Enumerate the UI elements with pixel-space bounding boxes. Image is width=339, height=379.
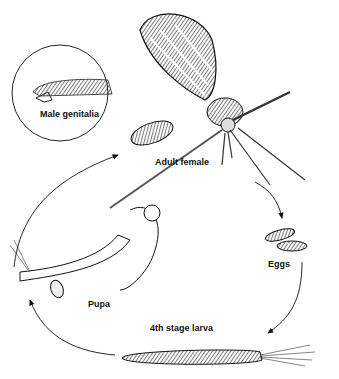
pupa-label: Pupa: [88, 299, 110, 309]
life-cycle-diagram: Male genitalia Adult female Eggs 4th sta…: [0, 0, 339, 379]
eggs-drawing: [264, 226, 307, 251]
larva-drawing: [122, 345, 315, 366]
adult-female-drawing: [110, 14, 305, 208]
eggs-label: Eggs: [268, 259, 290, 269]
inset-label: Male genitalia: [40, 109, 99, 119]
arrow-adult-to-eggs: [255, 182, 282, 218]
larva-label: 4th stage larva: [150, 323, 213, 333]
adult-female-label: Adult female: [155, 157, 209, 167]
pupa-drawing: [10, 205, 160, 300]
arrow-eggs-to-larva: [268, 262, 302, 333]
male-genitalia-inset: [12, 45, 112, 141]
